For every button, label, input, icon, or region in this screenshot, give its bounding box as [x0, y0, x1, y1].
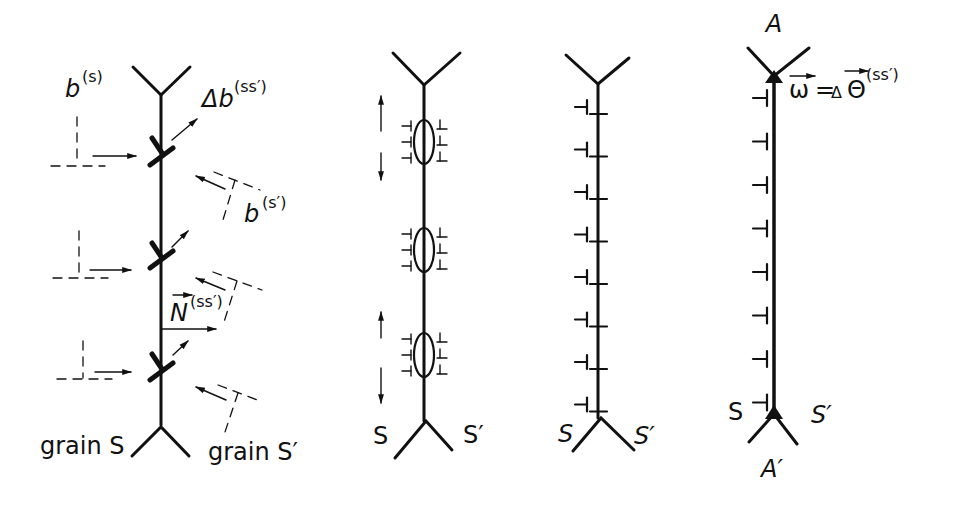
- label-b-s-prime-sup: (s′): [262, 193, 286, 212]
- label-b-s-sup: (s): [82, 67, 103, 86]
- bottom-triple-junction: [395, 421, 452, 458]
- dislocation-pair-icon: [575, 398, 607, 412]
- dislocation-symbol-icon: [437, 349, 447, 358]
- dislocation-pair-icon: [575, 228, 607, 242]
- dislocation-symbol-icon: [437, 228, 447, 237]
- label-grain-s: grain S: [40, 432, 125, 460]
- dislocation-symbol-icon: [753, 395, 767, 411]
- top-triple-junction: [748, 48, 809, 76]
- dislocation-symbol-icon: [402, 366, 411, 376]
- dislocation-symbol-icon: [437, 260, 447, 269]
- label-s-prime: S′: [463, 421, 484, 449]
- label-s-prime: S′: [634, 422, 655, 450]
- top-triple-junction: [393, 53, 460, 85]
- top-triple-junction: [133, 67, 190, 95]
- dislocation-symbol-icon: [753, 308, 767, 324]
- lattice-dislocation-s: [51, 117, 136, 166]
- dislocation-symbol-icon: [753, 351, 767, 367]
- lattice-dislocation-s: [57, 341, 131, 379]
- dislocation-symbol-icon: [402, 229, 411, 239]
- dislocation-symbol-icon: [402, 245, 411, 255]
- label-normal: N: [170, 299, 188, 327]
- arrow-icon: [196, 176, 225, 189]
- dislocation-symbol-icon: [437, 120, 447, 129]
- label-grain-s-prime: grain S′: [208, 438, 298, 466]
- dislocation-symbol-icon: [753, 221, 767, 237]
- dislocation-symbol-icon: [402, 137, 411, 147]
- label-delta-b-sup: (ss′): [234, 77, 267, 96]
- dislocation-symbol-icon: [402, 121, 411, 131]
- label-b-s-prime: b: [244, 200, 259, 228]
- panel-4: A A′ S S′ ω = Δ Θ (ss′): [728, 10, 899, 483]
- delta-b-arrow-icon: [172, 231, 188, 247]
- dislocation-symbol-icon: [402, 350, 411, 360]
- delta-b-arrow-icon: [172, 119, 197, 140]
- label-s: S: [373, 422, 388, 450]
- dislocation-symbol-icon: [402, 334, 411, 344]
- label-a: A: [764, 10, 782, 38]
- label-s: S: [728, 398, 743, 426]
- bottom-triple-junction: [573, 418, 634, 451]
- dislocation-symbol-icon: [437, 333, 447, 342]
- arrow-icon: [196, 387, 226, 400]
- label-s-prime: S′: [811, 401, 832, 429]
- label-b-s: b: [65, 75, 80, 103]
- label-delta-b: Δb: [200, 85, 234, 113]
- dislocation-symbol-icon: [437, 152, 447, 161]
- dislocation-symbol-icon: [437, 136, 447, 145]
- grain-boundary-diagram: b (s) Δb (ss′) b (s′) N (ss′) grain S gr…: [0, 0, 960, 508]
- panel-3: S S′: [558, 55, 655, 451]
- dislocation-symbol-icon: [753, 177, 767, 193]
- dislocation-symbol-icon: [753, 264, 767, 280]
- label-a-prime: A′: [759, 455, 783, 483]
- dislocation-pair-icon: [575, 313, 607, 327]
- label-theta-sup: (ss′): [866, 65, 899, 84]
- label-omega: ω: [789, 76, 809, 104]
- label-theta: Θ: [847, 76, 866, 104]
- dislocation-pair-icon: [575, 185, 607, 199]
- dislocation-symbol-icon: [402, 261, 411, 271]
- top-triple-junction: [566, 55, 629, 84]
- panel-2: S S′: [373, 53, 484, 458]
- dislocation-pair-icon: [575, 355, 607, 369]
- panel-1: b (s) Δb (ss′) b (s′) N (ss′) grain S gr…: [40, 67, 298, 466]
- dislocation-symbol-icon: [437, 365, 447, 374]
- dislocation-symbol-icon: [437, 244, 447, 253]
- dislocation-pair-icon: [575, 143, 607, 157]
- label-s: S: [558, 420, 573, 448]
- label-normal-sup: (ss′): [190, 292, 223, 311]
- lattice-dislocation-s-prime: [196, 385, 260, 432]
- dislocation-symbol-icon: [753, 90, 767, 106]
- label-delta: Δ: [831, 83, 842, 102]
- arrow-icon: [196, 278, 225, 290]
- delta-b-arrow-icon: [173, 341, 188, 355]
- lattice-dislocation-s: [53, 231, 131, 278]
- bottom-triple-junction: [132, 427, 189, 456]
- dislocation-pair-icon: [575, 270, 607, 284]
- dislocation-pair-icon: [575, 100, 607, 114]
- dislocation-symbol-icon: [753, 134, 767, 150]
- dislocation-symbol-icon: [402, 153, 411, 163]
